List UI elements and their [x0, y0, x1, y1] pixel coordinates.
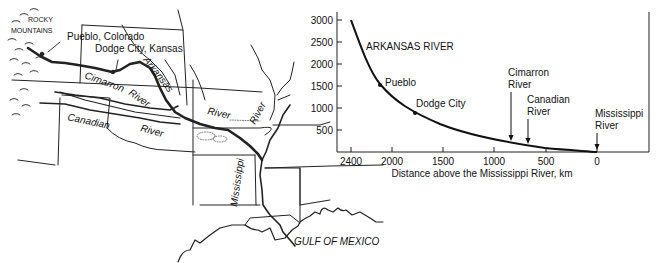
- x-tick-1000: 1000: [483, 156, 506, 167]
- canadian-river-label: River: [139, 122, 165, 139]
- y-tick-2500: 2500: [311, 37, 334, 48]
- mississippi-annot-line2: River: [595, 120, 619, 131]
- y-axis: [337, 20, 342, 130]
- dodge-city-point: [413, 111, 417, 115]
- y-tick-1500: 1500: [311, 81, 334, 92]
- y-tick-500: 500: [316, 125, 333, 136]
- rocky-label-2: MOUNTAINS: [11, 27, 53, 34]
- figure: ROCKY MOUNTAINS Pueblo, Colorado Dodge C…: [0, 0, 657, 263]
- pueblo-point: [378, 83, 382, 87]
- x-tick-500: 500: [538, 156, 555, 167]
- y-tick-2000: 2000: [311, 59, 334, 70]
- cimarron-label: Cimarron: [83, 70, 126, 95]
- x-tick-2400: 2400: [340, 156, 363, 167]
- mississippi-label: Mississippi: [228, 157, 246, 207]
- mississippi-river-upper-label: River: [247, 100, 268, 126]
- canadian-annot-line1: Canadian: [527, 94, 570, 105]
- canadian-annotation: Canadian River: [526, 94, 570, 144]
- profile-chart: 3000 2500 2000 1500 1000 500 2400 2000 1…: [311, 12, 649, 179]
- y-tick-1000: 1000: [311, 103, 334, 114]
- arkansas-river-label: River: [207, 105, 233, 121]
- chart-frame: [337, 12, 649, 152]
- cimarron-annot-line1: Cimarron: [508, 67, 549, 78]
- dodge-city-point-label: Dodge City: [416, 98, 465, 109]
- x-tick-2000: 2000: [381, 156, 404, 167]
- mississippi-annotation: Mississippi River: [595, 108, 644, 150]
- y-tick-3000: 3000: [311, 15, 334, 26]
- canadian-label: Canadian: [67, 111, 112, 131]
- pueblo-label: Pueblo, Colorado: [67, 31, 145, 42]
- chart-title: ARKANSAS RIVER: [366, 41, 454, 52]
- gulf-label: GULF OF MEXICO: [294, 236, 379, 247]
- mississippi-river: [260, 105, 295, 246]
- canadian-annot-line2: River: [527, 106, 551, 117]
- pueblo-point-label: Pueblo: [385, 77, 417, 88]
- x-tick-1500: 1500: [432, 156, 455, 167]
- pueblo-marker: [40, 52, 44, 56]
- mississippi-annot-line1: Mississippi: [595, 108, 643, 119]
- cimarron-annot-line2: River: [508, 79, 532, 90]
- rocky-label-1: ROCKY: [28, 16, 53, 23]
- dodge-city-marker: [111, 70, 115, 74]
- dodge-city-label: Dodge City, Kansas: [95, 43, 183, 54]
- mountain-hatches: [8, 9, 44, 116]
- arkansas-label: Arkansas: [141, 54, 176, 94]
- x-axis-label: Distance above the Mississippi River, km: [391, 168, 572, 179]
- x-tick-0: 0: [594, 156, 600, 167]
